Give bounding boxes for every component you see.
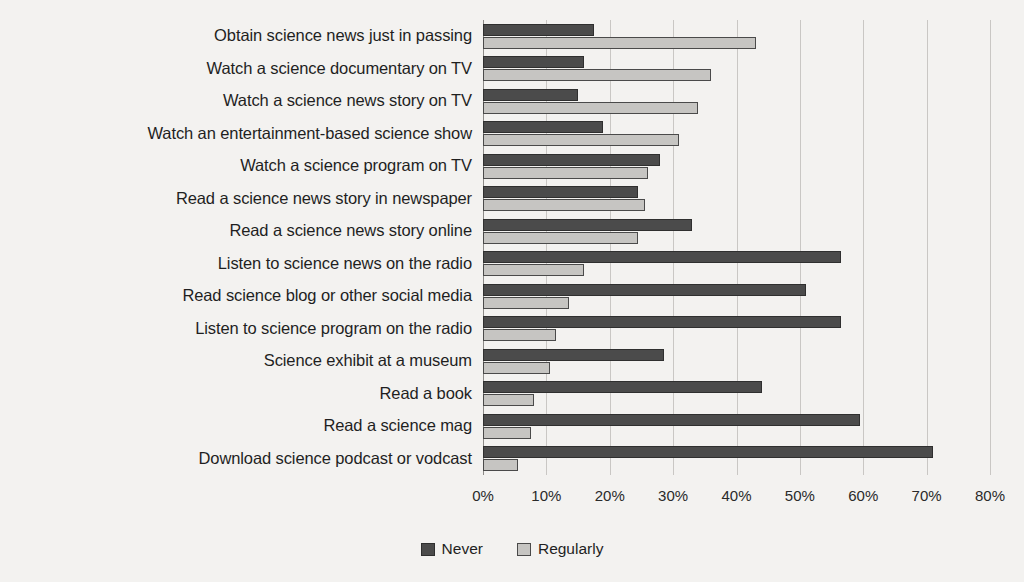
legend-label: Regularly xyxy=(538,540,603,558)
bar-never xyxy=(483,154,660,166)
bar-never xyxy=(483,186,638,198)
bar-group xyxy=(483,248,990,281)
bar-never xyxy=(483,316,841,328)
category-label: Download science podcast or vodcast xyxy=(0,450,472,467)
x-tick-label: 20% xyxy=(595,487,625,504)
science-media-habits-bar-chart: Obtain science news just in passingWatch… xyxy=(0,0,1024,582)
x-axis-tick-labels: 0%10%20%30%40%50%60%70%80% xyxy=(483,487,990,509)
bar-group xyxy=(483,85,990,118)
bar-never xyxy=(483,446,933,458)
category-label: Read a science news story in newspaper xyxy=(0,190,472,207)
bar-group xyxy=(483,410,990,443)
bar-regularly xyxy=(483,232,638,244)
bar-group xyxy=(483,118,990,151)
x-tick-label: 50% xyxy=(785,487,815,504)
bar-group xyxy=(483,150,990,183)
legend-label: Never xyxy=(442,540,483,558)
category-label: Listen to science program on the radio xyxy=(0,320,472,337)
bar-never xyxy=(483,89,578,101)
legend-swatch-never-icon xyxy=(421,543,435,556)
bar-group xyxy=(483,345,990,378)
category-label: Read a science mag xyxy=(0,417,472,434)
category-label: Listen to science news on the radio xyxy=(0,255,472,272)
plot-area xyxy=(483,20,990,475)
category-axis-labels: Obtain science news just in passingWatch… xyxy=(0,20,472,475)
category-label: Science exhibit at a museum xyxy=(0,352,472,369)
bar-group xyxy=(483,215,990,248)
bar-never xyxy=(483,251,841,263)
bar-regularly xyxy=(483,264,584,276)
x-tick-label: 30% xyxy=(658,487,688,504)
x-tick-label: 80% xyxy=(975,487,1005,504)
bar-never xyxy=(483,24,594,36)
bar-group xyxy=(483,53,990,86)
chart-legend: NeverRegularly xyxy=(0,540,1024,558)
bar-regularly xyxy=(483,459,518,471)
bar-regularly xyxy=(483,362,550,374)
bar-never xyxy=(483,56,584,68)
bar-regularly xyxy=(483,69,711,81)
bar-regularly xyxy=(483,329,556,341)
category-label: Watch a science documentary on TV xyxy=(0,60,472,77)
bar-regularly xyxy=(483,394,534,406)
bar-group xyxy=(483,378,990,411)
bar-group xyxy=(483,313,990,346)
x-tick-label: 10% xyxy=(531,487,561,504)
bar-never xyxy=(483,284,806,296)
bar-never xyxy=(483,121,603,133)
bar-group xyxy=(483,280,990,313)
bar-group xyxy=(483,443,990,476)
bar-regularly xyxy=(483,37,756,49)
category-label: Watch a science program on TV xyxy=(0,157,472,174)
bar-group xyxy=(483,183,990,216)
legend-item-never[interactable]: Never xyxy=(421,540,483,558)
category-label: Watch an entertainment-based science sho… xyxy=(0,125,472,142)
category-label: Read a book xyxy=(0,385,472,402)
legend-swatch-regularly-icon xyxy=(517,543,531,556)
bar-never xyxy=(483,219,692,231)
category-label: Read science blog or other social media xyxy=(0,287,472,304)
bar-regularly xyxy=(483,199,645,211)
category-label: Watch a science news story on TV xyxy=(0,92,472,109)
bar-group xyxy=(483,20,990,53)
bar-regularly xyxy=(483,167,648,179)
bar-regularly xyxy=(483,297,569,309)
bar-never xyxy=(483,349,664,361)
category-label: Read a science news story online xyxy=(0,222,472,239)
x-tick-label: 70% xyxy=(912,487,942,504)
x-tick-label: 0% xyxy=(472,487,494,504)
x-tick-label: 60% xyxy=(848,487,878,504)
gridline-80pct xyxy=(990,20,991,475)
bar-never xyxy=(483,381,762,393)
x-tick-label: 40% xyxy=(721,487,751,504)
bar-regularly xyxy=(483,102,698,114)
bar-regularly xyxy=(483,134,679,146)
category-label: Obtain science news just in passing xyxy=(0,27,472,44)
legend-item-regularly[interactable]: Regularly xyxy=(517,540,603,558)
bar-regularly xyxy=(483,427,531,439)
bar-never xyxy=(483,414,860,426)
